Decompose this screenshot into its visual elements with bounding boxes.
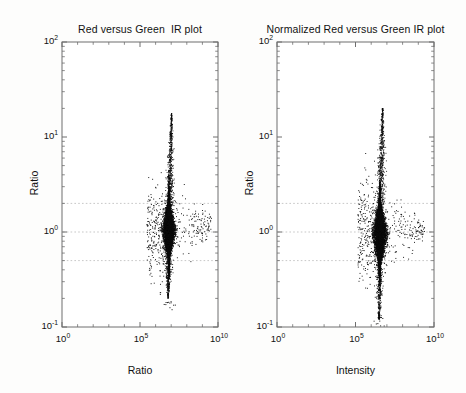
panel-right: Normalized Red versus Green IR plot Inte… bbox=[0, 0, 466, 393]
right-scatter-plot bbox=[0, 0, 466, 393]
figure-canvas: Red versus Green IR plot Ratio Ratio 100… bbox=[0, 0, 466, 393]
